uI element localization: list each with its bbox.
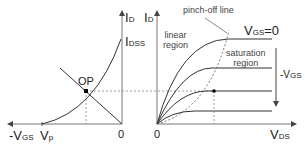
linear-region-label: linearregion — [163, 30, 188, 51]
vgs0-label: VGS=0 — [244, 24, 279, 37]
operating-point — [84, 89, 88, 93]
right-y-axis-label: ID — [144, 11, 153, 24]
saturation-region-label: saturationregion — [226, 48, 266, 69]
pinch-off-label: pinch-off line — [183, 5, 234, 15]
right-origin-label: 0 — [154, 129, 160, 140]
curve-vgs1 — [157, 68, 272, 124]
output-operating-point — [212, 89, 216, 93]
idss-label: IDSS — [125, 35, 145, 48]
op-label: OP — [78, 76, 94, 87]
pinch-off-leader — [205, 18, 227, 33]
vp-label: Vp — [40, 129, 53, 142]
curve-vgs2 — [157, 91, 272, 124]
neg-vgs-label: -VGS — [280, 70, 302, 80]
right-x-axis-label: VDS — [270, 128, 290, 141]
left-x-axis-label: -VGS — [9, 129, 34, 142]
curve-vgs3 — [157, 111, 272, 124]
left-y-axis-label: ID — [125, 11, 134, 24]
left-origin-label: 0 — [118, 129, 124, 140]
